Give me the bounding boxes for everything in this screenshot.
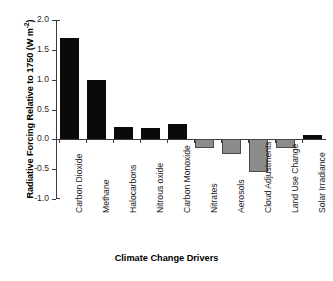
y-axis-tick-label: -0.5 [34, 163, 49, 173]
y-axis-tick: 1.5 [52, 50, 56, 51]
x-axis-tick [86, 139, 87, 143]
y-axis-tick: 0.5 [52, 110, 56, 111]
bar-halocarbons [114, 127, 133, 139]
x-axis-tick [248, 139, 249, 143]
x-axis-tick [140, 139, 141, 143]
x-axis-tick-label: Solar Irradiance [317, 152, 327, 213]
x-axis-tick-label: Halocarbons [128, 165, 138, 213]
y-axis-tick-label: 1.5 [37, 44, 49, 54]
x-axis-tick-label: Aerosols [236, 180, 246, 213]
y-axis-tick-label: 1.0 [37, 74, 49, 84]
y-axis-tick-label: 2.0 [37, 14, 49, 24]
x-axis-tick-label: Cloud Adjustments [263, 141, 273, 213]
x-axis-tick-label: Carbon Monoxide [182, 145, 192, 213]
y-axis-tick: -1.0 [52, 199, 56, 200]
bar-carbon-dioxide [60, 38, 79, 139]
y-axis-tick: 0.0 [52, 139, 56, 140]
x-axis-tick [167, 139, 168, 143]
bar-solar-irradiance [303, 135, 322, 140]
radiative-forcing-bar-chart: Radiative Forcing Relative to 1750 (W m-… [0, 0, 333, 281]
y-axis-tick-label: -1.0 [34, 193, 49, 203]
y-axis-tick-label: 0.5 [37, 104, 49, 114]
x-axis-tick-label: Land Use Change [290, 144, 300, 213]
x-axis-tick [275, 139, 276, 143]
bar-nitrous-oxide [141, 128, 160, 139]
x-axis-title: Climate Change Drivers [0, 253, 333, 263]
y-axis-title-exponent: -2 [23, 23, 30, 29]
y-axis-tick-label: 0.0 [37, 133, 49, 143]
bar-carbon-monoxide [168, 124, 187, 139]
y-axis-top-cap [56, 20, 60, 21]
x-axis-tick [302, 139, 303, 143]
y-axis-bottom-cap [56, 198, 60, 199]
y-axis-spine [56, 20, 57, 199]
x-axis-tick [113, 139, 114, 143]
y-axis-tick: 1.0 [52, 80, 56, 81]
x-axis-tick-label: Carbon Dioxide [74, 154, 84, 213]
x-axis-tick-label: Methane [101, 180, 111, 213]
bar-methane [87, 80, 106, 139]
y-axis-tick: 2.0 [52, 20, 56, 21]
x-axis-tick-label: Nitrous oxide [155, 163, 165, 213]
y-axis-tick: -0.5 [52, 169, 56, 170]
y-axis-title-suffix: ) [25, 20, 35, 23]
bar-nitrates [195, 139, 214, 148]
x-axis-tick [221, 139, 222, 143]
x-axis-tick [59, 139, 60, 143]
x-axis-tick [194, 139, 195, 143]
y-axis-title: Radiative Forcing Relative to 1750 (W m-… [23, 4, 35, 214]
x-axis-tick-label: Nitrates [209, 183, 219, 213]
bar-aerosols [222, 139, 241, 154]
plot-area: 2.01.51.00.50.0-0.5-1.0 Carbon DioxideMe… [56, 20, 326, 199]
